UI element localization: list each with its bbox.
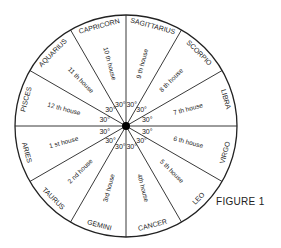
angle-label: 30°: [115, 101, 126, 108]
house-label: 6 th house: [173, 135, 205, 150]
house-label: 3rd house: [101, 173, 115, 203]
house-label: 2 nd house: [66, 157, 94, 185]
angle-label: 30°: [126, 101, 137, 108]
sign-label-virgo: VIRGO: [219, 140, 232, 164]
house-label: 4th house: [136, 173, 150, 203]
angle-label: 30°: [115, 143, 126, 150]
center-dot: [122, 122, 130, 130]
house-label: 1 st house: [48, 135, 79, 150]
zodiac-house-wheel: ARIESTAURUSGEMINICANCERLEOVIRGOLIBRASCOR…: [0, 0, 281, 248]
sign-label-cancer: CANCER: [137, 218, 167, 232]
angle-label: 30°: [136, 137, 147, 144]
sign-label-taurus: TAURUS: [41, 186, 66, 211]
angle-label: 30°: [136, 106, 147, 113]
angle-label: 30°: [99, 116, 110, 123]
house-label: 7 th house: [172, 101, 204, 116]
sign-label-aries: ARIES: [21, 141, 33, 163]
angle-label: 30°: [142, 116, 153, 123]
house-label: 12 th house: [47, 101, 82, 117]
sign-label-libra: LIBRA: [220, 88, 232, 110]
figure-caption: FIGURE 1: [216, 196, 265, 207]
house-label: 8 th house: [158, 66, 185, 93]
house-label: 11 th house: [67, 66, 96, 95]
angle-label: 30°: [142, 128, 153, 135]
sign-label-capricorn: CAPRICORN: [78, 17, 120, 35]
angle-label: 30°: [105, 106, 116, 113]
house-label: 10 th house: [102, 46, 118, 81]
sign-label-leo: LEO: [191, 191, 206, 206]
house-label: 5 th house: [159, 158, 186, 185]
house-label: 9 th house: [135, 48, 150, 80]
sign-label-sagittarius: SAGITTARIUS: [130, 17, 177, 36]
sign-label-gemini: GEMINI: [87, 218, 113, 231]
angle-label: 30°: [99, 128, 110, 135]
